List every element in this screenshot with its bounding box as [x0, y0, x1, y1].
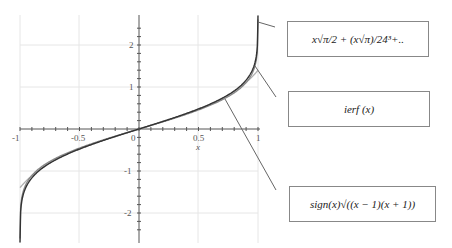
annotation-ierf: ierf (x) [288, 91, 430, 127]
y-tick-label: -2 [124, 208, 132, 218]
x-tick-label: 1 [256, 133, 261, 143]
y-tick-label: 1 [129, 82, 134, 92]
annotation-sign-sqrt: sign(x)√((x − 1)(x + 1)) [289, 186, 436, 222]
y-tick-label: 2 [129, 40, 134, 50]
y-tick-label: -1 [124, 166, 132, 176]
x-tick-label: 0 [131, 133, 136, 143]
x-axis-label: x [195, 142, 200, 152]
annotation-leaders [225, 22, 276, 190]
annotation-series-approx: x√π/2 + (x√π)/24³+.. [287, 21, 429, 57]
x-tick-label: -1 [12, 133, 20, 143]
x-tick-label: -0.5 [71, 133, 86, 143]
